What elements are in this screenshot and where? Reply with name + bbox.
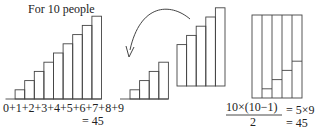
stair-bar	[206, 17, 216, 86]
stair-bar	[63, 44, 73, 99]
formula-result: = 45	[286, 116, 308, 130]
stair-bar	[82, 25, 92, 99]
sum-result: = 45	[82, 114, 104, 128]
stair-bar	[25, 81, 35, 99]
stair-bar	[130, 90, 140, 99]
stair-bar	[92, 16, 102, 99]
curved-arrow-icon	[126, 9, 190, 57]
formula-step: = 5×9	[286, 103, 315, 117]
stair-bar	[34, 71, 44, 99]
stair-bar	[187, 35, 197, 86]
title-text: For 10 people	[28, 2, 95, 16]
stair-bar	[73, 35, 83, 99]
sum-expression: 0+1+2+3+4+5+6+7+8+9	[3, 101, 124, 115]
stair-bar	[215, 8, 225, 86]
stair-bar	[177, 45, 187, 86]
stair-bar	[159, 62, 169, 99]
stair-bar	[149, 71, 159, 99]
stair-bar	[196, 26, 206, 86]
staircase-small	[120, 62, 168, 99]
stair-bar	[140, 81, 150, 99]
rect-outline	[252, 15, 302, 98]
stair-bar	[44, 62, 54, 99]
diagram-canvas: For 10 people 0+1+2+3+4+5+6+7+8+9 = 45 1…	[0, 0, 319, 140]
staircase-moved	[177, 8, 225, 86]
combined-rectangle	[252, 15, 302, 98]
diagram-svg: For 10 people 0+1+2+3+4+5+6+7+8+9 = 45 1…	[0, 0, 319, 140]
formula-denominator: 2	[250, 115, 256, 129]
stair-bar	[15, 90, 25, 99]
stair-bar	[54, 53, 64, 99]
staircase-left	[6, 16, 102, 99]
formula-numerator: 10×(10−1)	[226, 100, 278, 114]
